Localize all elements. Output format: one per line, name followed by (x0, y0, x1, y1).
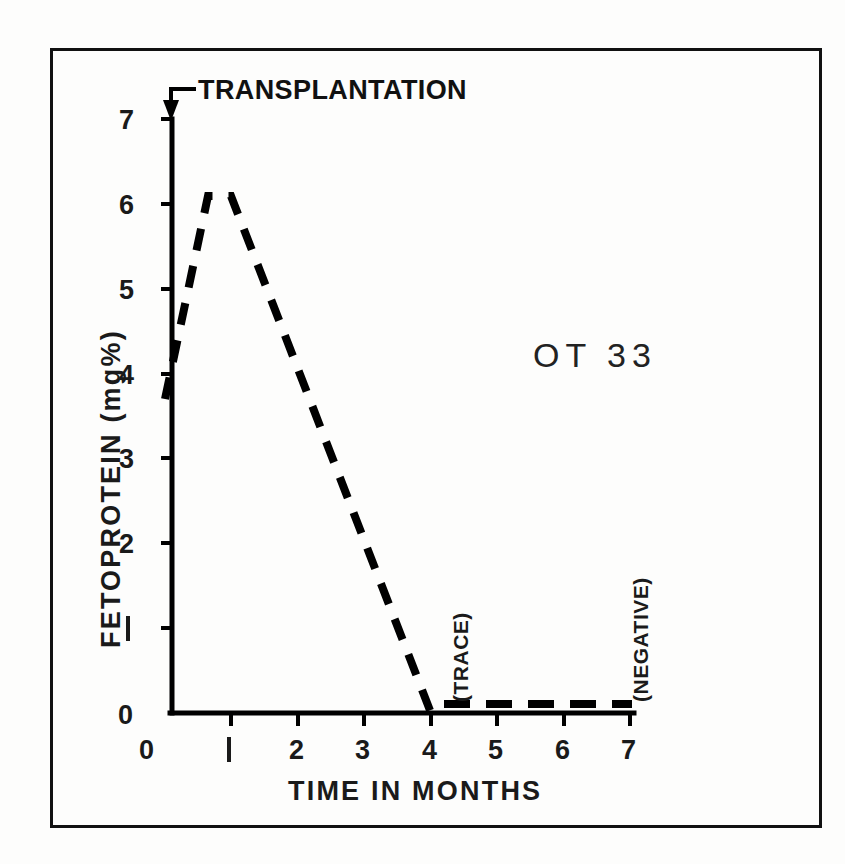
transplantation-arrow-icon (163, 89, 196, 121)
x-tick-label-0: 0 (139, 735, 154, 766)
y-tick-label-0: 0 (118, 700, 133, 731)
x-tick-label-1 (227, 735, 231, 766)
x-tick-label-2: 2 (289, 735, 304, 766)
y-tick-label-5: 5 (119, 275, 134, 306)
transplantation-label: TRANSPLANTATION (198, 75, 467, 106)
y-tick-label-7: 7 (119, 105, 134, 136)
x-tick-label-5: 5 (488, 735, 503, 766)
y-axis-title: FETOPROTEIN (mg%) (96, 329, 127, 648)
series-line-ot33 (165, 196, 431, 713)
trace-annotation: (TRACE) (449, 612, 473, 702)
x-tick-label-6: 6 (555, 735, 570, 766)
negative-annotation: (NEGATIVE) (629, 577, 653, 702)
x-tick-label-3: 3 (355, 735, 370, 766)
x-tick-label-7: 7 (621, 735, 636, 766)
figure-canvas: TRANSPLANTATION 7 6 5 4 3 2 0 0 2 3 4 5 … (0, 0, 845, 864)
x-axis-title: TIME IN MONTHS (288, 776, 542, 807)
case-id-label: OT 33 (533, 336, 657, 375)
x-tick-label-4: 4 (422, 735, 437, 766)
y-tick-label-6: 6 (119, 190, 134, 221)
